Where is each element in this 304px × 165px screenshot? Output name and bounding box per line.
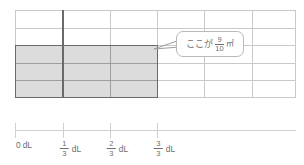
axis-tick — [110, 123, 111, 138]
callout-fraction: 9 10 — [215, 36, 224, 53]
grid-line-vertical — [252, 10, 253, 98]
axis-label-unit: dL — [23, 140, 32, 150]
axis-label-unit: dL — [166, 144, 175, 154]
axis-fraction: 3 3 — [154, 140, 163, 157]
axis-fraction-denominator: 3 — [156, 149, 160, 157]
shaded-row-divider — [16, 63, 157, 64]
grid-line-horizontal — [15, 28, 296, 29]
axis-label-3: 3 3 dL — [153, 140, 175, 157]
axis-fraction-numerator: 2 — [109, 140, 113, 148]
callout-fraction-numerator: 9 — [217, 36, 221, 44]
number-line: 0 dL 1 3 dL 2 3 dL 3 3 dL — [0, 118, 304, 165]
axis-fraction-numerator: 1 — [62, 140, 66, 148]
axis-label-unit: dL — [119, 144, 128, 154]
axis-label-1: 1 3 dL — [59, 140, 81, 157]
axis-fraction: 2 3 — [107, 140, 116, 157]
callout-unit: ㎡ — [226, 40, 234, 48]
shaded-column-divider — [110, 46, 111, 97]
callout-bubble: ここが 9 10 ㎡ — [176, 31, 244, 57]
callout-fraction-denominator: 10 — [215, 45, 223, 53]
axis-label-value: 0 — [16, 140, 21, 150]
axis-tick — [15, 123, 16, 138]
shaded-region — [15, 45, 158, 98]
axis-tick — [157, 123, 158, 138]
axis-tick — [63, 123, 64, 138]
axis-fraction-denominator: 3 — [62, 149, 66, 157]
axis-label-2: 2 3 dL — [106, 140, 128, 157]
shaded-row-divider — [16, 80, 157, 81]
axis-fraction: 1 3 — [60, 140, 69, 157]
axis-label-0: 0 dL — [16, 140, 32, 150]
callout-text: ここが 9 10 ㎡ — [186, 36, 234, 53]
callout-prefix: ここが — [186, 40, 213, 49]
axis-fraction-numerator: 3 — [156, 140, 160, 148]
shaded-column-divider-major — [62, 46, 63, 97]
axis-line — [15, 130, 296, 131]
axis-label-unit: dL — [72, 144, 81, 154]
axis-fraction-denominator: 3 — [109, 149, 113, 157]
